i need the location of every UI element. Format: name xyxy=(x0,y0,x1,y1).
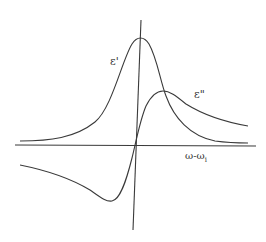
eps-real-curve xyxy=(20,38,248,143)
diagram-canvas xyxy=(0,0,266,242)
x-axis-label-subscript: i xyxy=(205,156,207,164)
x-axis-label-main: ω-ω xyxy=(185,150,205,161)
dielectric-dispersion-diagram: ε' ε" ω-ωi xyxy=(0,0,266,242)
eps-imag-label: ε" xyxy=(194,89,205,100)
x-axis-label: ω-ωi xyxy=(185,151,207,164)
eps-real-label: ε' xyxy=(110,56,119,67)
eps-real-text: ε' xyxy=(110,55,119,68)
eps-imag-text: ε" xyxy=(194,88,205,101)
